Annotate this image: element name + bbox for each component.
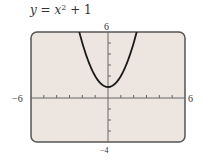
graph-window: −6 6 6 −4 [0,0,205,161]
y-min-label: −4 [100,146,109,155]
x-min-label: −6 [12,93,23,104]
y-max-label: 6 [104,21,109,32]
x-max-label: 6 [188,93,193,104]
